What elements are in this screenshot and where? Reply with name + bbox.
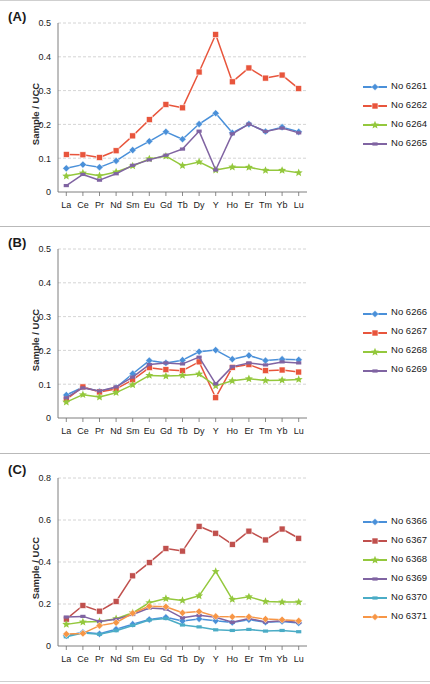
data-point-marker [229,541,235,547]
data-point-marker [147,618,152,621]
data-point-marker [371,556,379,564]
data-point-marker [197,625,202,628]
data-point-marker [64,615,69,618]
data-point-marker [245,375,253,383]
data-point-marker [64,184,69,187]
y-axis-tick-label: 0.3 [38,312,51,322]
y-axis-tick-label: 0 [46,187,51,197]
x-axis-tick-label: Sm [126,426,140,436]
data-point-marker [228,595,236,603]
data-point-marker [130,133,136,139]
data-point-marker [163,367,169,373]
legend-marker-icon [362,571,388,583]
legend-item[interactable]: No 6367 [362,530,427,549]
panel-c-legend: No 6366No 6367No 6368No 6369No 6370No 63… [362,511,427,625]
legend-item[interactable]: No 6267 [362,321,427,340]
legend-item[interactable]: No 6264 [362,114,427,133]
data-point-marker [228,377,236,385]
legend-label: No 6266 [391,306,427,317]
x-axis-tick-label: Eu [144,654,155,664]
x-axis-tick-label: Er [244,200,253,210]
data-point-marker [278,376,286,384]
data-point-marker [163,154,168,157]
legend-item[interactable]: No 6370 [362,587,427,606]
data-point-marker [212,346,219,353]
data-point-marker [114,172,119,175]
data-point-marker [96,164,103,171]
data-point-marker [162,594,170,602]
data-point-marker [280,629,285,632]
x-axis-tick-label: Ho [227,200,239,210]
data-point-marker [162,372,170,380]
x-axis-tick-label: Nd [110,426,122,436]
data-point-marker [79,161,86,168]
x-axis-tick-label: Ho [227,654,239,664]
x-axis-tick-label: Ce [77,426,89,436]
data-point-marker [245,163,253,171]
legend-item[interactable]: No 6368 [362,549,427,568]
y-axis-tick-label: 0.5 [38,244,51,254]
data-point-marker [246,122,251,125]
data-point-marker [64,396,69,399]
x-axis-tick-label: Ho [227,426,239,436]
data-point-marker [245,352,252,359]
panel-a: (A) Sample / UCC 00.10.20.30.40.5LaCePrN… [0,0,430,227]
data-point-marker [245,593,253,601]
legend-label: No 6370 [391,591,427,602]
legend-item[interactable]: No 6369 [362,568,427,587]
y-axis-tick-label: 0.2 [38,599,51,609]
data-point-marker [196,348,203,355]
data-point-marker [263,130,268,133]
data-point-marker [63,165,70,172]
legend-marker-icon [362,344,388,356]
data-point-marker [279,526,285,532]
legend-item[interactable]: No 6366 [362,511,427,530]
x-axis-tick-label: Tm [259,200,272,210]
data-point-marker [280,360,285,363]
data-point-marker [162,128,169,135]
legend-item[interactable]: No 6265 [362,133,427,152]
data-point-marker [371,83,378,90]
data-point-marker [213,168,218,171]
legend-label: No 6366 [391,515,427,526]
data-point-marker [113,148,119,154]
data-point-marker [296,369,302,375]
data-point-marker [230,132,235,135]
data-point-marker [180,362,185,365]
panel-a-legend: No 6261No 6262No 6264No 6265 [362,76,427,152]
x-axis-tick-label: Nd [110,654,122,664]
legend-label: No 6268 [391,344,427,355]
data-point-marker [372,330,378,336]
data-point-marker [213,382,218,385]
data-point-marker [130,573,136,579]
y-axis-tick-label: 0.4 [38,557,51,567]
x-axis-tick-label: Sm [126,654,140,664]
legend-label: No 6369 [391,572,427,583]
x-axis-tick-label: Dy [194,200,205,210]
legend-marker-icon [362,609,388,621]
data-point-marker [63,151,69,157]
legend-item[interactable]: No 6262 [362,95,427,114]
y-axis-tick-label: 0.5 [38,18,51,28]
data-point-marker [97,179,102,182]
data-point-marker [114,385,119,388]
x-axis-tick-label: La [61,200,71,210]
data-point-marker [163,361,168,364]
legend-item[interactable]: No 6268 [362,340,427,359]
legend-item[interactable]: No 6266 [362,302,427,321]
data-point-marker [212,613,219,620]
panel-b-plot: Sample / UCC 00.10.20.30.40.5LaCePrNdSmE… [0,227,430,453]
x-axis-tick-label: Pr [95,654,104,664]
data-point-marker [97,633,102,636]
legend-item[interactable]: No 6269 [362,359,427,378]
legend-item[interactable]: No 6371 [362,606,427,625]
x-axis-tick-label: Sm [126,200,140,210]
x-axis-tick-label: Y [213,654,219,664]
ree-spider-figure: (A) Sample / UCC 00.10.20.30.40.5LaCePrN… [0,0,430,684]
x-axis-tick-label: Y [213,426,219,436]
legend-item[interactable]: No 6261 [362,76,427,95]
data-point-marker [212,567,220,575]
data-point-marker [295,375,303,383]
x-axis-tick-label: Gd [160,426,172,436]
data-point-marker [296,86,302,92]
